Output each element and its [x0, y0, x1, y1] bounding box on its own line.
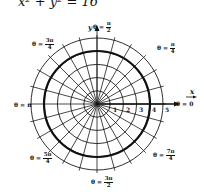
angle-label-0: θ = 0 [176, 101, 193, 107]
angle-label-3pi-over-2: θ = 3π2 [91, 176, 113, 188]
tick-5: 5 [165, 106, 169, 113]
angle-label-3pi-over-4: θ = 3π4 [32, 38, 54, 50]
tick-1: 1 [113, 106, 117, 113]
angle-label-pi-over-4: θ = π4 [157, 42, 175, 54]
tick-3: 3 [139, 106, 143, 113]
angle-label-pi-over-2: θ = π2 [93, 21, 111, 33]
angle-label-7pi-over-4: θ = 7π4 [153, 149, 175, 161]
y-axis-label: y [88, 23, 92, 32]
tick-2: 2 [126, 106, 130, 113]
tick-4: 4 [152, 106, 156, 113]
angle-label-pi: θ = π [14, 102, 32, 108]
x-axis-label: x [190, 87, 194, 96]
angle-label-5pi-over-4: θ = 5π4 [30, 152, 52, 164]
